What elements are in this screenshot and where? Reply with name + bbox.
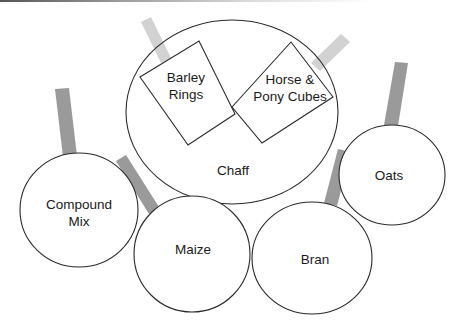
- label-chaff: Chaff: [217, 163, 249, 178]
- label-horse-pony-cubes-line2: Pony Cubes: [253, 89, 327, 104]
- label-maize: Maize: [175, 242, 211, 257]
- node-oats: Oats: [339, 125, 445, 225]
- oats-tab: [384, 62, 408, 126]
- label-compound-mix-line1: Compound: [46, 197, 112, 212]
- label-bran: Bran: [301, 252, 330, 267]
- node-compound-mix: Compound Mix: [20, 153, 138, 267]
- label-oats: Oats: [375, 168, 404, 183]
- node-maize: Maize: [134, 196, 250, 312]
- node-bran: Bran: [252, 202, 372, 314]
- feed-diagram: Chaff Barley Rings Horse & Pony Cubes Co…: [0, 0, 465, 333]
- label-horse-pony-cubes-line1: Horse &: [266, 72, 315, 87]
- label-barley-rings-line2: Rings: [169, 87, 204, 102]
- label-barley-rings-line1: Barley: [167, 70, 206, 85]
- compound-mix-tab: [55, 88, 77, 157]
- label-compound-mix-line2: Mix: [69, 214, 90, 229]
